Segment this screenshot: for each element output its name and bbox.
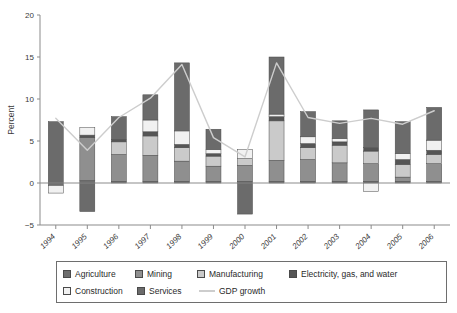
bar-segment <box>332 142 347 145</box>
bar-segment <box>143 136 158 155</box>
bar-segment <box>206 149 221 153</box>
legend-color-swatch <box>137 287 145 295</box>
bar-segment <box>111 142 126 155</box>
x-axis: 1994199519961997199819992000200120022003… <box>38 225 450 252</box>
y-axis-label: Percent <box>6 105 16 135</box>
legend-item-label: Services <box>149 286 182 296</box>
bar-segment <box>332 145 347 163</box>
bar-segment <box>269 114 284 117</box>
bar-series-group <box>48 57 441 214</box>
legend-color-swatch <box>197 270 205 278</box>
bar-segment <box>427 150 442 154</box>
x-tick-label: 1999 <box>196 232 215 251</box>
legend-item-label: Manufacturing <box>209 269 263 279</box>
chart-legend: AgricultureMiningManufacturingElectricit… <box>56 261 447 303</box>
x-tick-label: 1998 <box>164 232 183 251</box>
bar-segment <box>332 138 347 141</box>
bar-segment <box>206 156 221 166</box>
bar-segment <box>269 117 284 121</box>
bar-segment <box>301 159 316 181</box>
bar-segment <box>364 164 379 182</box>
bar-segment <box>238 183 253 214</box>
bar-segment <box>206 166 221 181</box>
bar-segment <box>143 155 158 181</box>
bar-segment <box>301 144 316 148</box>
legend-item-label: GDP growth <box>219 286 265 296</box>
x-tick-label: 1995 <box>70 232 89 251</box>
y-axis-title: Percent <box>6 105 16 135</box>
x-tick-label: 1997 <box>133 232 152 251</box>
legend-item[interactable]: Manufacturing <box>197 269 289 279</box>
bar-segment <box>111 139 126 142</box>
legend-color-swatch <box>135 270 143 278</box>
bar-segment <box>206 154 221 157</box>
bar-segment <box>111 117 126 140</box>
bar-segment <box>174 161 189 181</box>
y-tick-label: 10 <box>25 95 34 104</box>
bar-segment <box>364 151 379 164</box>
bar-segment <box>395 159 410 164</box>
bar-segment <box>48 122 63 183</box>
bar-segment <box>269 160 284 181</box>
y-tick-label: 15 <box>25 53 34 62</box>
bar-segment <box>427 140 442 150</box>
x-tick-label: 1996 <box>101 232 120 251</box>
bar-segment <box>332 163 347 181</box>
bar-segment <box>206 129 221 149</box>
legend-item[interactable]: Mining <box>135 269 197 279</box>
bar-segment <box>174 131 189 144</box>
y-tick-label: 0 <box>30 179 35 188</box>
legend-item[interactable]: Agriculture <box>63 269 135 279</box>
bar-segment <box>174 148 189 161</box>
bar-segment <box>269 57 284 114</box>
bar-segment <box>395 154 410 160</box>
bar-segment <box>395 177 410 181</box>
legend-item[interactable]: Electricity, gas, and water <box>289 269 397 279</box>
bar-segment <box>48 186 63 194</box>
bar-segment <box>301 148 316 160</box>
bar-segment <box>80 128 95 136</box>
x-tick-label: 1994 <box>38 232 57 251</box>
legend-item[interactable]: GDP growth <box>199 286 265 296</box>
legend-line-swatch <box>199 287 215 295</box>
bar-segment <box>301 137 316 144</box>
legend-item[interactable]: Services <box>137 286 199 296</box>
legend-item[interactable]: Construction <box>63 286 137 296</box>
x-tick-label: 2004 <box>353 232 373 252</box>
legend-row: ConstructionServicesGDP growth <box>63 283 446 299</box>
y-tick-label: −5 <box>25 221 35 230</box>
bar-segment <box>80 183 95 212</box>
bar-segment <box>111 154 126 181</box>
legend-item-label: Mining <box>147 269 172 279</box>
bar-segment <box>364 110 379 148</box>
x-tick-label: 2003 <box>321 232 341 252</box>
bar-segment <box>301 112 316 137</box>
bar-segment <box>269 121 284 160</box>
bar-segment <box>143 120 158 132</box>
legend-row: AgricultureMiningManufacturingElectricit… <box>63 266 446 282</box>
bar-segment <box>238 159 253 166</box>
bar-segment <box>364 183 379 191</box>
legend-color-swatch <box>63 287 71 295</box>
legend-item-label: Agriculture <box>75 269 116 279</box>
bar-segment <box>174 63 189 131</box>
bar-segment <box>174 144 189 147</box>
bar-segment <box>238 165 253 181</box>
bar-segment <box>395 122 410 154</box>
chart-container: −505101520 19941995199619971998199920002… <box>0 0 457 313</box>
y-tick-label: 20 <box>25 11 34 20</box>
bar-segment <box>395 165 410 178</box>
x-tick-label: 2006 <box>416 232 436 252</box>
y-axis: −505101520 <box>25 11 40 230</box>
y-tick-label: 5 <box>30 137 35 146</box>
legend-item-label: Construction <box>75 286 123 296</box>
x-tick-label: 2002 <box>290 232 310 252</box>
x-tick-label: 2001 <box>258 232 278 252</box>
bar-segment <box>427 164 442 182</box>
bar-segment <box>427 154 442 163</box>
legend-item-label: Electricity, gas, and water <box>301 269 397 279</box>
legend-color-swatch <box>289 270 297 278</box>
x-tick-label: 2000 <box>227 232 247 252</box>
legend-color-swatch <box>63 270 71 278</box>
x-tick-label: 2005 <box>384 232 404 252</box>
